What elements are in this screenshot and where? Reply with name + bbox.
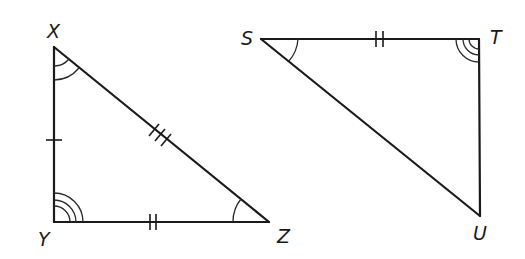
vertex-label-y: Y — [38, 228, 51, 250]
side-tu — [479, 39, 480, 216]
congruent-triangles-diagram: X Y Z S T U — [0, 0, 525, 259]
vertex-label-x: X — [46, 20, 61, 42]
angle-z-single-arc — [233, 199, 241, 222]
vertex-label-t: T — [490, 26, 503, 48]
angle-y-triple-arc — [54, 193, 83, 222]
side-xz — [54, 47, 269, 222]
triangle-stu: S T U — [241, 26, 503, 244]
vertex-label-u: U — [473, 222, 487, 244]
angle-x-double-arc — [54, 59, 79, 80]
angle-s-single-arc — [289, 39, 298, 61]
vertex-label-s: S — [241, 27, 253, 49]
triangle-xyz: X Y Z — [38, 20, 291, 250]
vertex-label-z: Z — [276, 225, 291, 247]
side-su — [261, 39, 480, 216]
angle-t-triple-arc — [456, 39, 479, 62]
